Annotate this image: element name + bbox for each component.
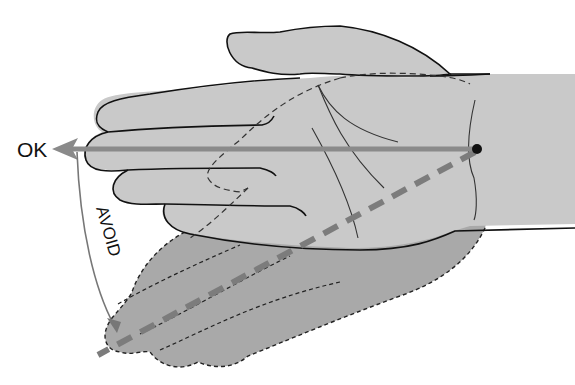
pivot-point: [472, 144, 482, 154]
avoid-label: AVOID: [92, 204, 124, 259]
ok-label: OK: [17, 138, 47, 161]
thumb: [227, 26, 490, 76]
